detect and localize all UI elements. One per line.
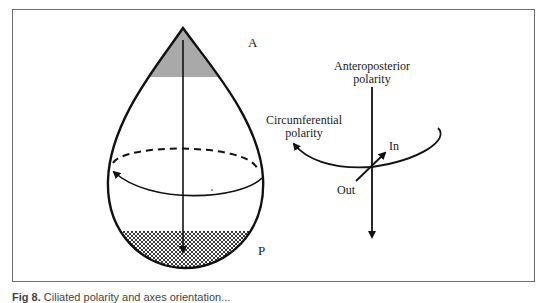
label-anterior: A	[248, 36, 257, 49]
label-posterior: P	[258, 244, 265, 257]
equator-front-arrow	[114, 172, 262, 196]
caption-text: Ciliated polarity and axes orientation..…	[44, 291, 231, 303]
figure-caption: Fig 8. Ciliated polarity and axes orient…	[12, 291, 230, 303]
label-in: In	[389, 140, 399, 153]
speck-dot	[211, 189, 213, 191]
label-circumferential-line2: polarity	[262, 127, 346, 140]
anterior-shaded-region	[100, 20, 270, 77]
caption-figure-number: Fig 8.	[12, 291, 41, 303]
equator-dashed-back	[113, 149, 257, 168]
label-anteroposterior-line2: polarity	[330, 73, 414, 86]
label-out: Out	[337, 184, 355, 197]
